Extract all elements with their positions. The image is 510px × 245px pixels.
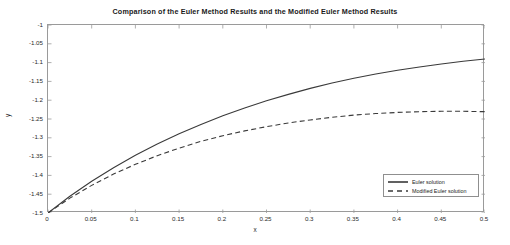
x-tick-label: 0.4 — [382, 215, 412, 222]
y-tick-label: -1.3 — [9, 133, 43, 140]
x-axis-label: x — [0, 226, 510, 233]
legend-sample-solid-line — [387, 178, 409, 186]
y-axis-label: y — [4, 107, 11, 125]
legend-item-euler-solution[interactable]: Euler solution — [387, 177, 475, 186]
figure-canvas: Comparison of the Euler Method Results a… — [0, 0, 510, 245]
x-tick-label: 0.35 — [338, 215, 368, 222]
legend-sample-dashed-line — [387, 187, 409, 195]
y-tick-label: -1.25 — [9, 115, 43, 122]
legend-label: Euler solution — [412, 178, 445, 186]
x-tick-label: 0.15 — [163, 215, 193, 222]
legend-label: Modified Euler solution — [412, 187, 467, 195]
y-tick-label: -1.4 — [9, 171, 43, 178]
y-tick-label: -1.1 — [9, 58, 43, 65]
x-tick-label: 0.2 — [207, 215, 237, 222]
y-tick-label: -1 — [9, 21, 43, 28]
x-tick-label: 0.25 — [251, 215, 281, 222]
y-tick-label: -1.45 — [9, 190, 43, 197]
x-tick-label: 0.1 — [119, 215, 149, 222]
x-tick-label: 0.3 — [294, 215, 324, 222]
x-tick-label: 0 — [32, 215, 62, 222]
x-tick-label: 0.5 — [469, 215, 499, 222]
y-tick-label: -1.2 — [9, 96, 43, 103]
legend-box[interactable]: Euler solution Modified Euler solution — [383, 174, 479, 197]
y-tick-label: -1.15 — [9, 77, 43, 84]
y-tick-label: -1.35 — [9, 152, 43, 159]
page-title: Comparison of the Euler Method Results a… — [0, 7, 510, 16]
y-tick-label: -1.05 — [9, 39, 43, 46]
legend-item-modified-euler-solution[interactable]: Modified Euler solution — [387, 186, 475, 195]
x-tick-label: 0.45 — [425, 215, 455, 222]
series-line-modified-euler-solution — [48, 111, 485, 213]
x-tick-label: 0.05 — [76, 215, 106, 222]
